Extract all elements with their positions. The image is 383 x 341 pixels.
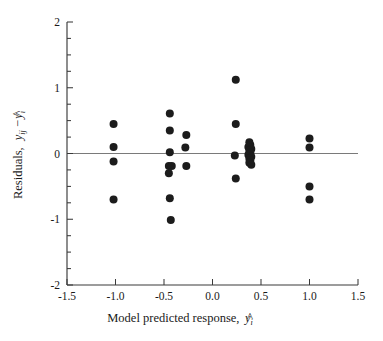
data-point [110,120,118,128]
data-point [166,148,174,156]
data-point [110,157,118,165]
x-tick-label: -1.0 [106,290,124,302]
data-point [166,109,174,117]
data-point [232,76,240,84]
data-point [166,194,174,202]
data-point [306,196,314,204]
x-tick-label: -0.5 [155,290,173,302]
y-tick-label: 1 [54,82,60,94]
data-point [167,216,175,224]
svg-text:Residuals, yij−^yi: Residuals, yij−^yi [10,110,27,199]
data-point [306,144,314,152]
y-tick-label: -1 [50,213,60,225]
data-point [110,143,118,151]
y-tick-label: 2 [54,16,60,28]
residual-plot-figure: 2 1 0 -1 -2 -1.5 -1.0 -0.5 0.0 0.5 1.0 1… [0,0,383,341]
x-tick-label: 1.5 [351,290,366,302]
data-point [231,151,239,159]
y-axis-title-text: Residuals, [11,147,25,199]
data-point [247,161,255,169]
y-tick-label: 0 [54,148,60,160]
data-point [306,134,314,142]
x-axis-title-text: Model predicted response, [107,311,239,325]
y-axis-title-sub: ij [18,129,27,134]
x-axis-title: Model predicted response, ^yi [107,310,253,327]
x-tick-label: 0.5 [254,290,269,302]
data-point [232,120,240,128]
y-axis-title-minus: − [11,120,25,127]
x-tick-label: -1.5 [58,290,76,302]
x-tick-label: 0.0 [205,290,220,302]
data-point [181,144,189,152]
y-axis-title: Residuals, yij−^yi [10,110,27,199]
data-point [182,131,190,139]
svg-text:Model predicted response, ^yi: Model predicted response, ^yi [107,310,253,327]
data-point [168,162,176,170]
data-point [232,174,240,182]
x-tick-label: 1.0 [302,290,317,302]
data-point [182,162,190,170]
data-point [165,169,173,177]
data-point [110,196,118,204]
data-point [166,126,174,134]
scatter-plot-svg: 2 1 0 -1 -2 -1.5 -1.0 -0.5 0.0 0.5 1.0 1… [0,0,383,341]
data-point [306,182,314,190]
